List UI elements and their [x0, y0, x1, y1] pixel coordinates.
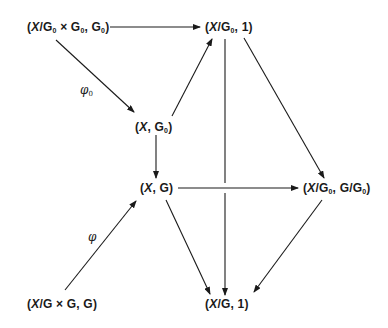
- node-x-g-times-g-g: (X/G × G, G): [27, 297, 97, 311]
- node-x-g0-1: (X/G0, 1): [205, 20, 253, 34]
- label-phi0: φ0: [80, 83, 93, 97]
- arrow-d-to-g: [166, 200, 210, 294]
- node-x-g0-times-g0-g0: (X/G0 × G0, G0): [27, 20, 109, 34]
- arrow-e-to-g: [254, 200, 322, 292]
- node-x-g: (X, G): [140, 181, 173, 195]
- arrow-a-to-c: [56, 40, 134, 112]
- arrow-b-to-e: [244, 38, 324, 178]
- arrow-c-to-b: [172, 39, 212, 116]
- node-x-g0-g-g0: (X/G0, G/G0): [303, 181, 371, 195]
- label-phi: φ: [88, 230, 96, 244]
- node-x-g-1: (X/G, 1): [205, 297, 249, 311]
- diagram-edges: [0, 0, 388, 328]
- arrow-f-to-d: [65, 201, 136, 290]
- node-x-g0: (X, G0): [135, 120, 172, 134]
